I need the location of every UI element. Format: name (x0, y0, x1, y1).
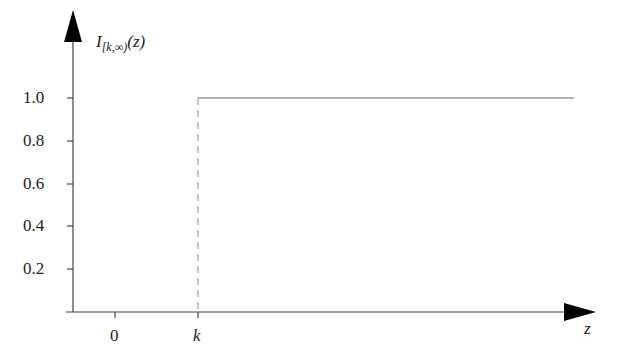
y-ticks (67, 98, 73, 269)
y-label-subscript: [k,∞) (102, 40, 128, 54)
y-tick-label: 0.8 (23, 132, 44, 149)
y-axis-label: I[k,∞)(z) (96, 33, 145, 53)
y-axis-arrow-icon (64, 10, 82, 42)
chart-canvas (0, 0, 622, 359)
y-label-argument: (z) (127, 32, 145, 51)
x-axis-label: z (584, 320, 591, 337)
x-axis-arrow-icon (564, 303, 596, 321)
x-tick-label: 0 (110, 327, 119, 344)
x-ticks (115, 312, 198, 318)
y-tick-label: 1.0 (23, 89, 44, 106)
y-tick-label: 0.2 (23, 260, 44, 277)
y-tick-label: 0.4 (23, 217, 44, 234)
x-tick-label: k (193, 327, 201, 344)
y-tick-label: 0.6 (23, 175, 44, 192)
